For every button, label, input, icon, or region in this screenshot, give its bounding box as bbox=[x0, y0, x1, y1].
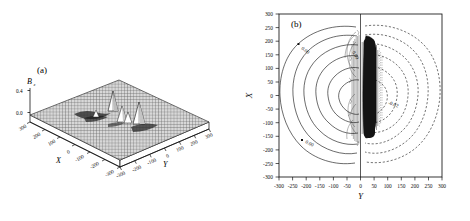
b-ytick-0: 300 bbox=[265, 11, 273, 17]
y-tick-label-2: -100 bbox=[146, 156, 157, 166]
y-tick-label-0: -300 bbox=[115, 169, 126, 179]
b-xtick-9: 150 bbox=[397, 183, 405, 189]
x-axis-name: X bbox=[55, 156, 62, 165]
x-tick-label-3: 0 bbox=[66, 148, 71, 155]
z-axis-subscript: z bbox=[33, 82, 36, 87]
b-yaxis-ticks bbox=[276, 14, 279, 177]
b-ytick-10: -200 bbox=[263, 147, 273, 153]
x-tick-label-1: 200 bbox=[32, 131, 42, 140]
z-axis-name: B bbox=[27, 77, 32, 86]
z-tick-label-0: 0.4 bbox=[16, 88, 23, 94]
b-xtick-10: 200 bbox=[411, 183, 419, 189]
z-tick-label-1: 0.0 bbox=[16, 110, 23, 116]
b-xtick-0: -300 bbox=[274, 183, 284, 189]
b-ytick-12: -300 bbox=[263, 174, 273, 180]
y-tick-label-5: 200 bbox=[189, 138, 199, 147]
x-tick-label-5: -200 bbox=[89, 160, 101, 170]
y-axis-name: Y bbox=[163, 160, 169, 169]
b-ytick-9: -150 bbox=[263, 133, 273, 139]
b-xtick-4: -100 bbox=[328, 183, 338, 189]
b-xtick-8: 100 bbox=[384, 183, 392, 189]
b-ytick-8: -100 bbox=[263, 120, 273, 126]
y-tick-label-1: -200 bbox=[131, 163, 142, 173]
dense-core-fill bbox=[364, 38, 376, 138]
b-ytick-5: 50 bbox=[268, 79, 274, 85]
panel-b-label: (b) bbox=[291, 19, 302, 29]
b-xtick-2: -200 bbox=[301, 183, 311, 189]
x-tick-label-4: -100 bbox=[74, 153, 86, 163]
b-ytick-1: 250 bbox=[265, 25, 273, 31]
b-ytick-2: 200 bbox=[265, 38, 273, 44]
b-xtick-6: 0 bbox=[359, 183, 362, 189]
b-xaxis-ticks bbox=[279, 177, 442, 180]
b-ytick-4: 100 bbox=[265, 65, 273, 71]
y-tick-label-6: 300 bbox=[204, 131, 214, 140]
panel-a: (a) 0.4 0.0 B z bbox=[0, 0, 235, 221]
b-xtick-3: -150 bbox=[315, 183, 325, 189]
contour-label-0-marker bbox=[298, 43, 300, 45]
b-xtick-12: 300 bbox=[438, 183, 446, 189]
panel-b: (b) bbox=[235, 0, 470, 221]
b-xtick-5: -50 bbox=[343, 183, 350, 189]
figure-root: (a) 0.4 0.0 B z bbox=[0, 0, 470, 221]
x-tick-label-0: 300 bbox=[18, 123, 28, 132]
b-ytick-3: 150 bbox=[265, 52, 273, 58]
b-xaxis-name: Y bbox=[358, 191, 364, 201]
b-ytick-6: 0 bbox=[270, 93, 273, 99]
panel-a-canvas: (a) 0.4 0.0 B z bbox=[0, 0, 235, 221]
b-xtick-1: -250 bbox=[288, 183, 298, 189]
panel-b-canvas: (b) bbox=[235, 0, 470, 221]
panel-a-label: (a) bbox=[37, 65, 47, 75]
b-ytick-11: -250 bbox=[263, 161, 273, 167]
b-ytick-7: -50 bbox=[266, 106, 273, 112]
contour-label-1-marker bbox=[301, 139, 303, 141]
y-tick-label-3: 0 bbox=[165, 152, 170, 159]
b-xtick-11: 250 bbox=[424, 183, 432, 189]
x-tick-label-2: 100 bbox=[47, 138, 57, 147]
b-xtick-7: 50 bbox=[371, 183, 377, 189]
y-tick-label-4: 100 bbox=[175, 144, 185, 153]
x-tick-label-6: -300 bbox=[104, 168, 116, 178]
b-yaxis-name: X bbox=[244, 92, 254, 99]
